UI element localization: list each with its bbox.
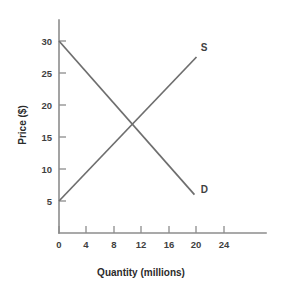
y-tick-label-20: 20	[41, 100, 52, 111]
y-tick-label-10: 10	[41, 164, 52, 175]
demand-curve-label: D	[201, 184, 208, 195]
x-tick-label-24: 24	[219, 239, 230, 250]
x-axis-title: Quantity (millions)	[97, 267, 185, 278]
x-tick-label-8: 8	[111, 239, 116, 250]
x-tick-label-16: 16	[164, 239, 175, 250]
x-tick-label-12: 12	[136, 239, 147, 250]
y-tick-label-5: 5	[47, 196, 53, 207]
x-tick-label-0: 0	[56, 239, 61, 250]
supply-curve-label: S	[201, 42, 208, 53]
supply-demand-chart: 30 25 20 15 10 5 0 4 8 12 16 20 24 S D Q…	[0, 0, 281, 294]
y-tick-label-25: 25	[41, 68, 52, 79]
chart-canvas: 30 25 20 15 10 5 0 4 8 12 16 20 24 S D Q…	[0, 0, 281, 294]
x-tick-label-4: 4	[83, 239, 89, 250]
x-tick-label-20: 20	[191, 239, 202, 250]
y-axis-title: Price ($)	[17, 105, 28, 144]
y-tick-label-30: 30	[41, 36, 52, 47]
y-tick-label-15: 15	[41, 132, 52, 143]
